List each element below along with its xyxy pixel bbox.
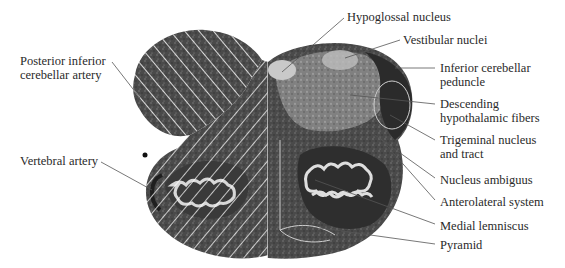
label-line: Posterior inferior [20, 54, 106, 68]
label-line: Vestibular nuclei [403, 33, 487, 47]
label-vestibular-nuclei: Vestibular nuclei [403, 33, 487, 47]
label-line: Descending [440, 97, 540, 111]
label-line: Hypoglossal nucleus [347, 10, 451, 24]
label-posterior-inferior-cerebellar-artery: Posterior inferior cerebellar artery [20, 54, 106, 82]
label-inferior-cerebellar-peduncle: Inferior cerebellar peduncle [440, 61, 531, 89]
right-half-section [268, 43, 412, 259]
label-line: Nucleus ambiguus [440, 173, 533, 187]
label-vertebral-artery: Vertebral artery [20, 154, 98, 168]
label-line: peduncle [440, 75, 531, 89]
label-nucleus-ambiguus: Nucleus ambiguus [440, 173, 533, 187]
label-line: Anterolateral system [440, 195, 544, 209]
label-line: Vertebral artery [20, 154, 98, 168]
label-line: Trigeminal nucleus [440, 133, 536, 147]
label-anterolateral-system: Anterolateral system [440, 195, 544, 209]
label-line: Medial lemniscus [440, 219, 529, 233]
label-hypoglossal-nucleus: Hypoglossal nucleus [347, 10, 451, 24]
label-medial-lemniscus: Medial lemniscus [440, 219, 529, 233]
label-line: cerebellar artery [20, 68, 106, 82]
leader-vertebral [101, 162, 152, 190]
label-line: hypothalamic fibers [440, 111, 540, 125]
label-line: Inferior cerebellar [440, 61, 531, 75]
medulla-figure: Posterior inferior cerebellar artery Ver… [0, 0, 565, 268]
label-trigeminal-nucleus-and-tract: Trigeminal nucleus and tract [440, 133, 536, 161]
label-line: Pyramid [440, 238, 482, 252]
label-pyramid: Pyramid [440, 238, 482, 252]
label-line: and tract [440, 147, 536, 161]
label-descending-hypothalamic-fibers: Descending hypothalamic fibers [440, 97, 540, 125]
